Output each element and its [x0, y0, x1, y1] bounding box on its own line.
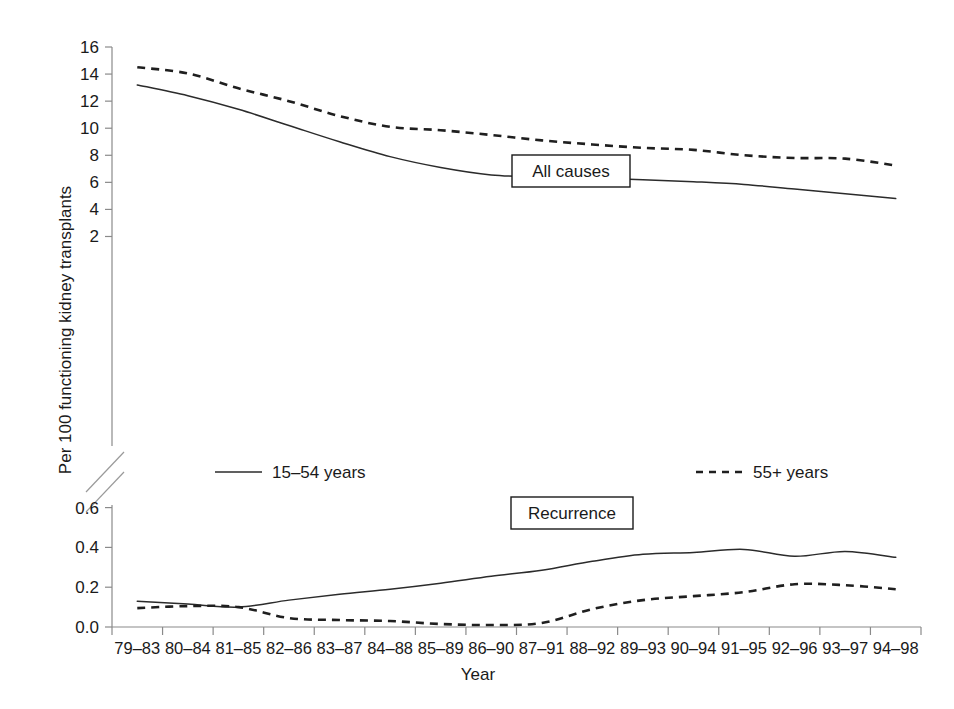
x-tick-label: 90–94	[671, 639, 717, 657]
x-tick-label: 87–91	[519, 639, 565, 657]
y-tick-label-lower: 0.2	[75, 578, 99, 597]
y-axis-lower: 0.00.20.40.6	[75, 499, 112, 637]
y-tick-label-upper: 16	[80, 38, 99, 57]
x-tick-label: 88–92	[569, 639, 615, 657]
legend-label-55-plus-years: 55+ years	[753, 463, 828, 482]
x-tick-label: 82–86	[266, 639, 312, 657]
series-line-recurrence-15-54-years	[137, 549, 895, 607]
y-tick-label-upper: 10	[80, 119, 99, 138]
x-tick-label: 86–90	[468, 639, 514, 657]
x-tick-label: 80–84	[165, 639, 211, 657]
chart-canvas: 246810121416 0.00.20.40.6 79–8380–8481–8…	[0, 0, 954, 709]
x-tick-label: 94–98	[873, 639, 919, 657]
legend-item-55-plus-years: 55+ years	[696, 463, 828, 482]
legend-label-15-54-years: 15–54 years	[272, 463, 366, 482]
y-axis-upper: 246810121416	[80, 38, 112, 446]
series-line-all-causes-55-plus-years	[137, 67, 895, 165]
y-tick-label-upper: 14	[80, 65, 99, 84]
y-tick-label-upper: 4	[90, 200, 99, 219]
x-tick-label: 83–87	[317, 639, 363, 657]
legend: 15–54 years 55+ years	[215, 463, 828, 482]
series-line-recurrence-55-plus-years	[137, 584, 895, 625]
annotation-all-causes-label: All causes	[532, 162, 609, 181]
y-axis-upper-ticks: 246810121416	[80, 38, 112, 246]
x-tick-label: 79–83	[114, 639, 160, 657]
y-axis-title: Per 100 functioning kidney transplants	[56, 186, 75, 474]
y-tick-label-upper: 12	[80, 92, 99, 111]
y-tick-label-lower: 0.0	[75, 618, 99, 637]
x-axis: 79–8380–8481–8582–8683–8784–8885–8986–90…	[112, 627, 921, 657]
annotation-all-causes: All causes	[512, 155, 630, 187]
x-tick-label: 92–96	[772, 639, 818, 657]
x-tick-label: 91–95	[721, 639, 767, 657]
y-axis-lower-ticks: 0.00.20.40.6	[75, 499, 112, 637]
x-axis-ticks	[112, 627, 921, 635]
annotation-recurrence: Recurrence	[511, 497, 633, 529]
panel-recurrence-series	[137, 549, 895, 625]
y-tick-label-upper: 2	[90, 227, 99, 246]
legend-item-15-54-years: 15–54 years	[215, 463, 366, 482]
x-tick-label: 93–97	[822, 639, 868, 657]
x-tick-label: 89–93	[620, 639, 666, 657]
y-tick-label-lower: 0.4	[75, 538, 99, 557]
y-tick-label-upper: 8	[90, 146, 99, 165]
y-tick-label-lower: 0.6	[75, 499, 99, 518]
x-tick-label: 85–89	[418, 639, 464, 657]
chart-figure: 246810121416 0.00.20.40.6 79–8380–8481–8…	[0, 0, 954, 709]
x-tick-label: 84–88	[367, 639, 413, 657]
y-tick-label-upper: 6	[90, 173, 99, 192]
x-tick-label: 81–85	[215, 639, 261, 657]
x-axis-title: Year	[461, 665, 496, 684]
annotation-recurrence-label: Recurrence	[528, 504, 616, 523]
x-axis-tick-labels: 79–8380–8481–8582–8683–8784–8885–8986–90…	[114, 639, 918, 657]
